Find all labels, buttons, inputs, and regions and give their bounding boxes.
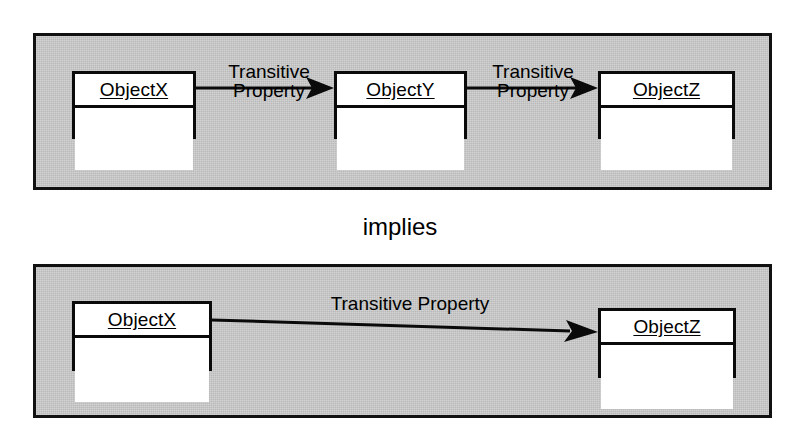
class-box-attributes-compartment <box>601 108 732 170</box>
class-box-header: ObjectX <box>75 74 193 108</box>
class-box-header: ObjectZ <box>601 74 732 108</box>
implies-label: implies <box>0 213 800 241</box>
class-box-attributes-compartment <box>337 108 464 170</box>
class-box-objectz-conclusion[interactable]: ObjectZ <box>598 308 736 378</box>
class-box-objectx-premise[interactable]: ObjectX <box>72 71 196 139</box>
diagram-canvas: ObjectX ObjectY ObjectZ Transitive Prope… <box>0 0 800 437</box>
class-box-objectx-conclusion[interactable]: ObjectX <box>72 301 212 371</box>
class-name-label: ObjectX <box>108 309 176 331</box>
class-name-label: ObjectY <box>366 79 434 101</box>
class-name-label: ObjectZ <box>633 316 700 338</box>
class-box-header: ObjectZ <box>601 311 733 345</box>
class-box-attributes-compartment <box>75 108 193 170</box>
class-box-header: ObjectY <box>337 74 464 108</box>
class-box-header: ObjectX <box>75 304 209 338</box>
class-box-attributes-compartment <box>601 345 733 409</box>
class-box-attributes-compartment <box>75 338 209 402</box>
class-name-label: ObjectZ <box>633 79 700 101</box>
class-box-objectz-premise[interactable]: ObjectZ <box>598 71 735 139</box>
class-name-label: ObjectX <box>100 79 168 101</box>
class-box-objecty-premise[interactable]: ObjectY <box>334 71 467 139</box>
